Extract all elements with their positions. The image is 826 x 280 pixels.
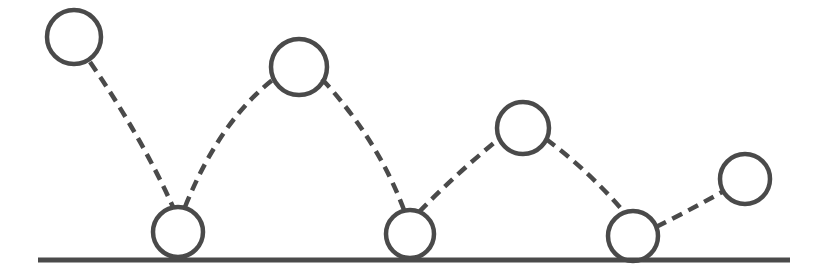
ball-apex-3 [720, 154, 770, 204]
ball-apex-2 [497, 102, 549, 154]
diagram-canvas [0, 0, 826, 280]
arc-fall-2 [546, 139, 624, 212]
ball-impact-2 [386, 210, 434, 258]
arc-fall-0 [90, 62, 173, 207]
ball-impact-3 [608, 211, 658, 261]
trajectory-arcs-group [90, 62, 722, 227]
ball-impact-1 [153, 207, 203, 257]
arc-fall-1 [322, 79, 404, 210]
arc-rise-1 [185, 78, 275, 207]
ball-release [47, 10, 101, 64]
ball-apex-1 [271, 39, 327, 95]
arc-rise-3 [656, 192, 722, 227]
bouncing-ball-diagram [0, 0, 826, 280]
arc-rise-2 [419, 138, 500, 212]
